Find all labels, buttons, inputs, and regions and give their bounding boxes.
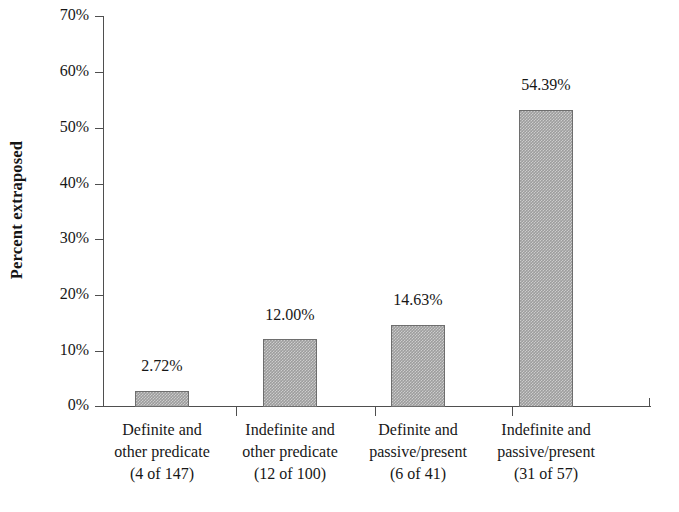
y-tick-label-0: 0% — [29, 396, 89, 414]
y-tick-label-50: 50% — [29, 118, 89, 136]
bar-value-label-3: 14.63% — [373, 291, 463, 309]
x-category-label-2: Indefinite and other predicate (12 of 10… — [228, 419, 352, 485]
y-tick-70 — [95, 16, 103, 17]
x-tick-2 — [375, 407, 376, 416]
bar-indefinite-passive-present — [519, 110, 573, 407]
y-axis-line — [103, 16, 104, 407]
y-tick-label-70: 70% — [29, 6, 89, 24]
x-category-label-4-line2: passive/present — [484, 441, 608, 463]
y-tick-label-60: 60% — [29, 62, 89, 80]
x-axis-right-cap — [649, 398, 650, 407]
y-tick-label-30: 30% — [29, 229, 89, 247]
x-category-label-1-line1: Definite and — [100, 419, 224, 441]
bar-indefinite-other-predicate — [263, 339, 317, 407]
y-tick-0 — [95, 406, 103, 407]
bar-value-label-1: 2.72% — [117, 357, 207, 375]
bar-value-label-2: 12.00% — [245, 306, 335, 324]
x-category-label-2-line1: Indefinite and — [228, 419, 352, 441]
x-category-label-3-line3: (6 of 41) — [356, 463, 480, 485]
y-tick-40 — [95, 184, 103, 185]
y-tick-60 — [95, 72, 103, 73]
y-axis-title-text: Percent extraposed — [7, 141, 27, 279]
bar-definite-other-predicate — [135, 391, 189, 407]
x-category-label-2-line3: (12 of 100) — [228, 463, 352, 485]
bar-chart: Percent extraposed 70% 60% 50% 40% 30% 2… — [0, 0, 679, 512]
bar-definite-passive-present — [391, 325, 445, 407]
x-category-label-1-line3: (4 of 147) — [100, 463, 224, 485]
x-category-label-1-line2: other predicate — [100, 441, 224, 463]
y-tick-50 — [95, 128, 103, 129]
x-category-label-2-line2: other predicate — [228, 441, 352, 463]
x-category-label-4: Indefinite and passive/present (31 of 57… — [484, 419, 608, 485]
y-tick-30 — [95, 239, 103, 240]
x-tick-3 — [512, 407, 513, 416]
bar-value-label-4: 54.39% — [501, 76, 591, 94]
x-category-label-4-line1: Indefinite and — [484, 419, 608, 441]
y-tick-label-20: 20% — [29, 285, 89, 303]
x-category-label-4-line3: (31 of 57) — [484, 463, 608, 485]
x-tick-1 — [236, 407, 237, 416]
y-tick-label-40: 40% — [29, 174, 89, 192]
y-tick-label-10: 10% — [29, 341, 89, 359]
x-category-label-1: Definite and other predicate (4 of 147) — [100, 419, 224, 485]
x-category-label-3-line2: passive/present — [356, 441, 480, 463]
y-tick-20 — [95, 295, 103, 296]
x-category-label-3-line1: Definite and — [356, 419, 480, 441]
x-category-label-3: Definite and passive/present (6 of 41) — [356, 419, 480, 485]
y-tick-10 — [95, 351, 103, 352]
